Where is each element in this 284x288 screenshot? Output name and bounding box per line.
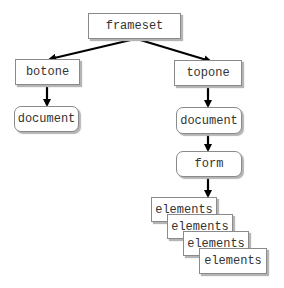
node-document-left: document bbox=[14, 106, 79, 132]
node-label: elements bbox=[204, 254, 262, 268]
node-label: frameset bbox=[106, 19, 164, 33]
node-topone: topone bbox=[174, 60, 242, 86]
node-document-right: document bbox=[176, 107, 242, 134]
node-botone: botone bbox=[15, 59, 80, 85]
node-label: form bbox=[195, 157, 224, 171]
node-label: botone bbox=[26, 65, 69, 79]
node-elements-4: elements bbox=[199, 248, 267, 274]
node-label: document bbox=[18, 112, 76, 126]
node-label: document bbox=[180, 114, 238, 128]
arrow-frameset-topone bbox=[137, 39, 210, 61]
node-form: form bbox=[176, 151, 242, 177]
node-label: topone bbox=[186, 66, 229, 80]
arrow-frameset-botone bbox=[50, 39, 135, 59]
node-frameset: frameset bbox=[88, 13, 181, 39]
